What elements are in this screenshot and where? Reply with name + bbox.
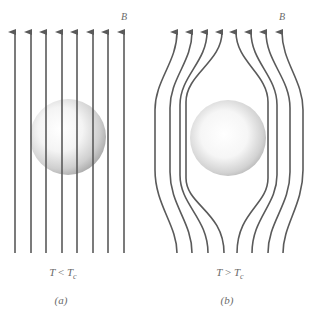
condition-var: T xyxy=(49,266,55,278)
field-line xyxy=(266,32,290,253)
condition-var: T xyxy=(216,266,222,278)
field-line xyxy=(170,32,192,253)
field-label-b-b: B xyxy=(279,11,285,22)
condition-label-b: T > Tc xyxy=(216,266,243,281)
field-line xyxy=(155,32,177,253)
panel-b-diagram xyxy=(155,32,303,253)
condition-op: < xyxy=(58,266,64,278)
condition-op: > xyxy=(225,266,231,278)
superconducting-sphere-a xyxy=(30,99,106,175)
superconducting-sphere-b xyxy=(190,100,266,176)
condition-label-a: T < Tc xyxy=(49,266,76,281)
field-line xyxy=(282,32,303,253)
panel-a-diagram xyxy=(15,32,124,253)
panel-caption-a: (a) xyxy=(55,294,68,306)
panel-caption-b: (b) xyxy=(221,294,234,306)
condition-subscript: c xyxy=(73,272,77,281)
field-label-b-a: B xyxy=(121,11,127,22)
figure-canvas xyxy=(0,0,312,316)
condition-subscript: c xyxy=(240,272,244,281)
